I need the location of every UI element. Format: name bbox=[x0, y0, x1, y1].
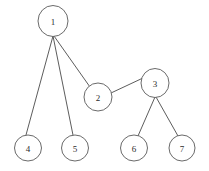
node-label-5: 5 bbox=[73, 144, 78, 154]
graph-node-5[interactable]: 5 bbox=[62, 135, 89, 161]
graph-node-6[interactable]: 6 bbox=[121, 135, 148, 161]
node-label-4: 4 bbox=[26, 144, 31, 154]
graph-canvas-svg: 1234567 bbox=[0, 0, 209, 171]
graph-node-2[interactable]: 2 bbox=[84, 83, 112, 111]
graph-edge-2-3 bbox=[111, 78, 143, 93]
graph-edge-1-2 bbox=[54, 36, 90, 87]
graph-diagram: 1234567 bbox=[0, 0, 209, 171]
node-label-7: 7 bbox=[180, 144, 185, 154]
graph-edge-3-6 bbox=[138, 97, 155, 136]
node-label-3: 3 bbox=[153, 79, 158, 89]
graph-node-4[interactable]: 4 bbox=[15, 135, 42, 161]
graph-edge-3-7 bbox=[156, 97, 178, 136]
graph-node-7[interactable]: 7 bbox=[169, 135, 195, 161]
node-layer: 1234567 bbox=[15, 6, 196, 162]
node-label-1: 1 bbox=[51, 17, 56, 27]
graph-node-3[interactable]: 3 bbox=[141, 69, 169, 98]
node-label-6: 6 bbox=[132, 144, 137, 154]
node-label-2: 2 bbox=[96, 93, 101, 103]
graph-node-1[interactable]: 1 bbox=[38, 6, 68, 37]
graph-edge-1-5 bbox=[53, 36, 73, 135]
graph-edge-1-4 bbox=[26, 36, 53, 135]
